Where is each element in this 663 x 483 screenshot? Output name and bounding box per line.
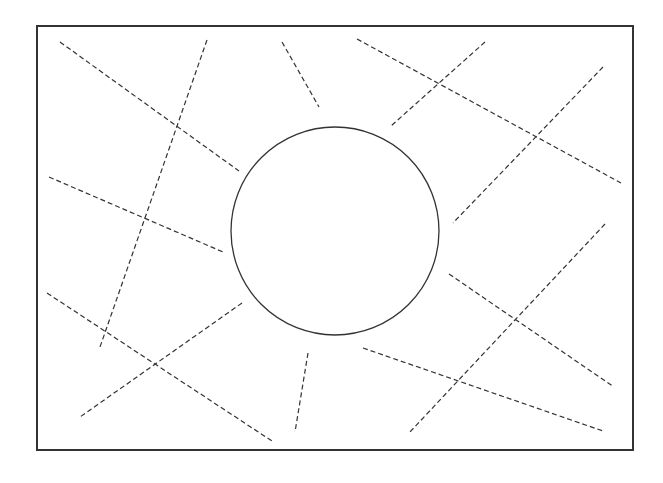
- dashed-line-3: [282, 42, 319, 107]
- dashed-line-7: [453, 67, 603, 223]
- dashed-line-10: [295, 353, 308, 432]
- dashed-line-5: [357, 39, 621, 183]
- dashed-line-1: [60, 42, 239, 171]
- dashed-lines-group: [47, 39, 621, 441]
- dashed-line-8: [47, 293, 272, 441]
- dashed-line-12: [409, 224, 605, 433]
- dashed-line-11: [449, 274, 614, 387]
- diagram-canvas: [0, 0, 663, 483]
- dashed-line-6: [391, 42, 485, 126]
- central-circle: [231, 127, 439, 335]
- dashed-line-13: [363, 348, 603, 431]
- dashed-line-2: [100, 40, 207, 347]
- dashed-line-9: [80, 303, 242, 417]
- dashed-line-4: [49, 177, 223, 252]
